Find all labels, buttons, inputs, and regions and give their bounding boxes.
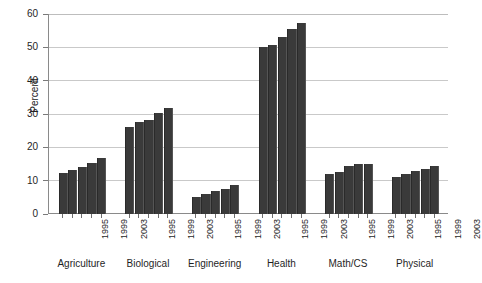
x-tick-label: 1999 <box>253 219 263 253</box>
bars-layer <box>48 14 448 214</box>
y-tick-label: 10 <box>8 175 38 186</box>
bar <box>221 189 230 214</box>
y-tick-mark <box>43 180 48 181</box>
x-tick-label: 1995 <box>300 219 310 253</box>
x-tick-label: 2003 <box>272 219 282 253</box>
x-tick-mark <box>195 214 196 218</box>
x-tick-mark <box>129 214 130 218</box>
y-tick-label: 40 <box>8 75 38 86</box>
x-tick-mark <box>224 214 225 218</box>
y-tick-mark <box>43 147 48 148</box>
x-tick-mark <box>158 214 159 218</box>
x-tick-mark <box>291 214 292 218</box>
x-tick-label: 2003 <box>339 219 349 253</box>
bar <box>430 166 439 214</box>
x-tick-label: 2003 <box>472 219 482 253</box>
bar <box>144 120 153 214</box>
bar <box>335 172 344 214</box>
bar <box>354 164 363 214</box>
group-label: Health <box>248 258 315 269</box>
bar <box>68 170 77 214</box>
bar <box>154 113 163 214</box>
bar <box>401 174 410 214</box>
bar <box>164 108 173 214</box>
bar <box>364 164 373 214</box>
x-tick-label: 2003 <box>205 219 215 253</box>
y-tick-mark <box>43 80 48 81</box>
bar <box>411 171 420 214</box>
x-tick-mark <box>262 214 263 218</box>
bar <box>392 177 401 214</box>
bar <box>325 174 334 214</box>
x-tick-mark <box>138 214 139 218</box>
x-tick-mark <box>301 214 302 218</box>
y-tick-label: 30 <box>8 108 38 119</box>
bar <box>268 45 277 214</box>
x-tick-mark <box>101 214 102 218</box>
x-tick-mark <box>167 214 168 218</box>
x-tick-label: 1995 <box>100 219 110 253</box>
x-tick-mark <box>358 214 359 218</box>
x-tick-mark <box>281 214 282 218</box>
bar <box>259 47 268 214</box>
x-tick-mark <box>405 214 406 218</box>
x-tick-mark <box>348 214 349 218</box>
x-tick-mark <box>367 214 368 218</box>
x-tick-mark <box>434 214 435 218</box>
x-tick-mark <box>234 214 235 218</box>
x-tick-mark <box>424 214 425 218</box>
x-tick-mark <box>72 214 73 218</box>
y-tick-label: 50 <box>8 41 38 52</box>
bar <box>230 185 239 214</box>
x-tick-mark <box>215 214 216 218</box>
bar <box>87 163 96 214</box>
y-tick-label: 0 <box>8 208 38 219</box>
group-label: Physical <box>381 258 448 269</box>
x-tick-label: 1999 <box>119 219 129 253</box>
x-tick-label: 1995 <box>167 219 177 253</box>
bar <box>297 23 306 214</box>
bar <box>59 173 68 214</box>
x-tick-mark <box>338 214 339 218</box>
x-tick-mark <box>148 214 149 218</box>
bar <box>135 122 144 214</box>
bar <box>192 197 201 214</box>
x-tick-mark <box>395 214 396 218</box>
bar <box>278 37 287 214</box>
bar <box>97 158 106 214</box>
bar <box>211 191 220 214</box>
x-tick-mark <box>91 214 92 218</box>
y-tick-mark <box>43 214 48 215</box>
x-tick-mark <box>62 214 63 218</box>
x-tick-mark <box>329 214 330 218</box>
y-tick-mark <box>43 14 48 15</box>
x-tick-mark <box>81 214 82 218</box>
group-label: Biological <box>115 258 182 269</box>
x-tick-mark <box>272 214 273 218</box>
bar <box>287 29 296 214</box>
y-tick-label: 20 <box>8 141 38 152</box>
x-tick-label: 1995 <box>367 219 377 253</box>
x-tick-label: 2003 <box>139 219 149 253</box>
x-tick-label: 1995 <box>233 219 243 253</box>
group-label: Engineering <box>181 258 248 269</box>
bar <box>421 169 430 214</box>
y-tick-mark <box>43 114 48 115</box>
x-tick-mark <box>415 214 416 218</box>
bar <box>78 167 87 214</box>
x-tick-label: 1999 <box>186 219 196 253</box>
x-tick-label: 1995 <box>433 219 443 253</box>
y-tick-label: 60 <box>8 8 38 19</box>
x-tick-label: 1999 <box>386 219 396 253</box>
group-label: Math/CS <box>315 258 382 269</box>
y-tick-mark <box>43 47 48 48</box>
bar <box>125 127 134 214</box>
x-tick-mark <box>205 214 206 218</box>
bar <box>344 166 353 214</box>
x-tick-label: 2003 <box>405 219 415 253</box>
bar <box>201 194 210 214</box>
x-tick-label: 1999 <box>453 219 463 253</box>
x-tick-label: 1999 <box>319 219 329 253</box>
group-label: Agriculture <box>48 258 115 269</box>
